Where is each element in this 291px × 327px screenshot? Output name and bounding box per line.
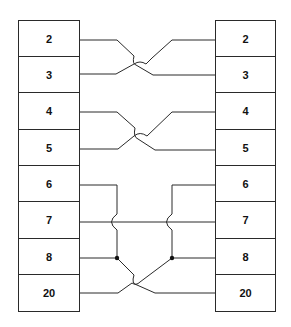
wiring-diagram: 2 3 4 5 6 7 8 20 2 3 4 5 6 7 8 20 (0, 0, 291, 327)
left-pin-3: 3 (18, 56, 80, 93)
wire-l8-r20 (117, 258, 215, 293)
right-pin-4: 4 (215, 92, 276, 130)
junction-left-8 (115, 256, 119, 260)
pin-label: 3 (46, 69, 52, 81)
right-pin-8: 8 (215, 238, 276, 275)
pin-label: 5 (46, 142, 52, 154)
pin-label: 5 (242, 142, 248, 154)
pin-label: 6 (242, 178, 248, 190)
left-pin-2: 2 (18, 20, 80, 57)
right-pin-5: 5 (215, 129, 276, 166)
pin-label: 8 (242, 251, 248, 263)
right-pin-2: 2 (215, 20, 276, 57)
left-pin-8: 8 (18, 238, 80, 275)
wire-l5-r4 (79, 112, 215, 149)
pin-label: 7 (242, 214, 248, 226)
right-pin-20: 20 (215, 274, 276, 312)
pin-label: 20 (43, 287, 55, 299)
pin-label: 20 (239, 287, 251, 299)
pin-label: 2 (46, 33, 52, 45)
wire-l2-r3 (79, 40, 215, 75)
left-pin-5: 5 (18, 129, 80, 166)
junction-right-8 (170, 256, 174, 260)
pin-label: 8 (46, 251, 52, 263)
wire-l4-r5 (79, 112, 215, 150)
right-pin-3: 3 (215, 56, 276, 93)
left-pin-6: 6 (18, 165, 80, 202)
left-pin-4: 4 (18, 92, 80, 130)
pin-label: 6 (46, 178, 52, 190)
pin-label: 4 (242, 105, 248, 117)
wire-l3-r2 (79, 40, 215, 74)
pin-label: 4 (46, 105, 52, 117)
pin-label: 2 (242, 33, 248, 45)
pin-label: 3 (242, 69, 248, 81)
right-pin-7: 7 (215, 201, 276, 239)
right-pin-6: 6 (215, 165, 276, 202)
pin-label: 7 (46, 214, 52, 226)
left-pin-20: 20 (18, 274, 80, 312)
wire-r8-l20 (79, 258, 172, 293)
left-pin-7: 7 (18, 201, 80, 239)
